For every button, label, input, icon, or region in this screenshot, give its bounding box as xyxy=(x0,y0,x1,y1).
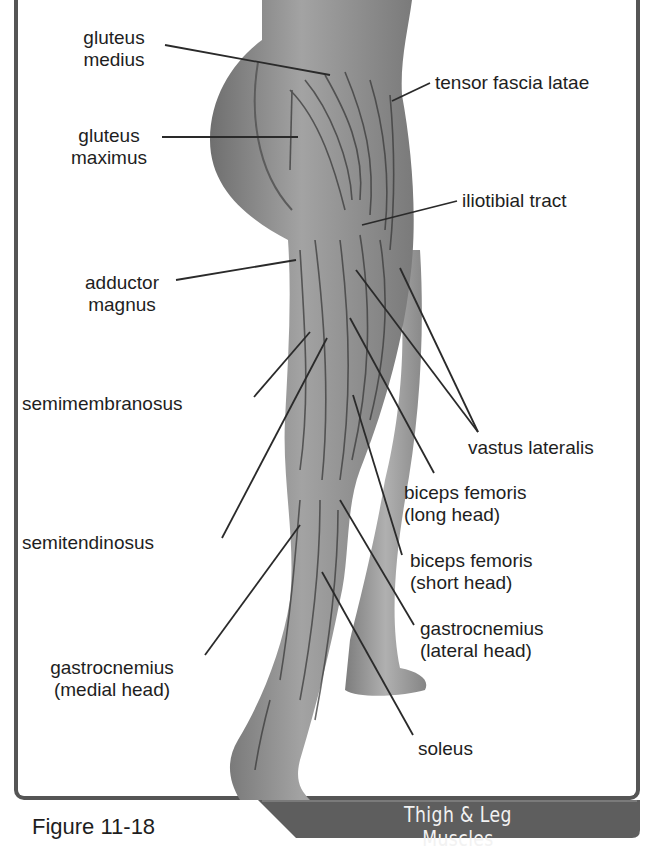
label-semitendinosus: semitendinosus xyxy=(22,532,222,554)
label-iliotibial-tract: iliotibial tract xyxy=(462,190,622,212)
label-biceps-femoris-short: biceps femoris (short head) xyxy=(410,550,570,594)
label-gluteus-maximus: gluteus maximus xyxy=(70,125,148,169)
figure-caption: Figure 11-18 xyxy=(32,814,155,840)
label-soleus: soleus xyxy=(418,738,498,760)
label-gluteus-medius: gluteus medius xyxy=(76,27,152,71)
label-semimembranosus: semimembranosus xyxy=(22,393,252,415)
label-tensor-fascia-latae: tensor fascia latae xyxy=(435,72,635,94)
label-gastrocnemius-lateral: gastrocnemius (lateral head) xyxy=(420,618,580,662)
label-biceps-femoris-long: biceps femoris (long head) xyxy=(404,482,564,526)
banner-title: Thigh & Leg Muscles xyxy=(368,803,548,846)
label-gastrocnemius-medial: gastrocnemius (medial head) xyxy=(22,657,202,701)
label-adductor-magnus: adductor magnus xyxy=(75,272,169,316)
label-vastus-lateralis: vastus lateralis xyxy=(468,437,628,459)
leader-line-adductor-magnus xyxy=(176,260,296,280)
